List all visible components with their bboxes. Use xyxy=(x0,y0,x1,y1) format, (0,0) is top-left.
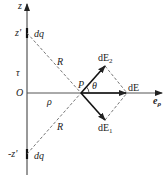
P-label: P xyxy=(78,80,84,90)
theta-label: θ xyxy=(92,81,97,91)
dE-label: dE xyxy=(128,83,139,93)
parallelogram-upper xyxy=(105,66,127,93)
minus-z-prime-label: -z' xyxy=(8,149,17,159)
R-upper-label: R xyxy=(57,57,63,67)
z-axis-label: z xyxy=(18,1,22,11)
angle-arc xyxy=(87,87,90,93)
z-prime-label: z' xyxy=(15,28,21,38)
dq-upper-label: dq xyxy=(34,29,44,39)
tau-label: τ xyxy=(16,68,20,78)
distance-line-lower xyxy=(27,93,81,154)
R-lower-label: R xyxy=(57,122,63,132)
distance-line-upper xyxy=(27,33,81,93)
dE2-label: dE2 xyxy=(98,53,113,65)
unit-vector-label: eρ xyxy=(153,96,161,108)
vector-dE1 xyxy=(81,93,105,120)
parallelogram-lower xyxy=(105,93,127,120)
rho-label: ρ xyxy=(47,97,52,107)
dE1-label: dE1 xyxy=(98,123,113,135)
diagram-canvas xyxy=(0,0,168,181)
origin-label: O xyxy=(16,88,23,98)
dq-lower-label: dq xyxy=(34,151,44,161)
